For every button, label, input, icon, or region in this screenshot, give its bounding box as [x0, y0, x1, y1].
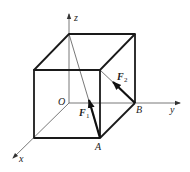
force-F2-subscript: 2	[124, 76, 128, 84]
z-axis-label: z	[73, 12, 78, 23]
point-A-label: A	[94, 141, 102, 152]
axes	[13, 14, 180, 158]
top-face	[34, 34, 135, 70]
force-F1-label: F	[78, 107, 86, 118]
force-F2-arrow	[113, 82, 135, 103]
force-F1-arrow	[89, 100, 100, 138]
origin-label: O	[58, 96, 65, 107]
force-F1-subscript: 1	[86, 112, 90, 120]
force-F2-label: F	[116, 71, 124, 82]
bottom-right-edge	[100, 103, 135, 138]
cube-hidden-edges	[69, 34, 135, 138]
x-axis-label: x	[18, 153, 24, 164]
y-axis-label: y	[169, 104, 175, 115]
x-axis	[13, 103, 69, 158]
cube-diagram: z y x O A B F 1 F 2	[0, 0, 190, 172]
point-B-label: B	[136, 104, 142, 115]
